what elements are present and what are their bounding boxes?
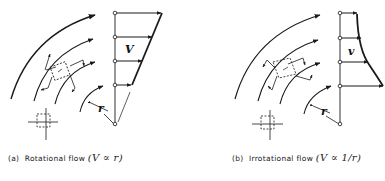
velocity-label: v <box>348 45 355 58</box>
radius-label: r <box>98 102 105 115</box>
caption-prefix: (b) <box>232 154 244 163</box>
streamlines <box>11 15 103 112</box>
caption-b: (b) Irrotational flow (V ∝ 1/r) <box>232 152 361 163</box>
panel-a-rotational: V r <box>11 11 162 140</box>
velocity-label: V <box>125 43 135 56</box>
caption-prefix: (a) <box>8 154 19 163</box>
panel-b-irrotational: v r <box>235 11 383 140</box>
velocity-profile-linear <box>113 11 162 126</box>
caption-relation: (V ∝ r) <box>88 152 123 163</box>
velocity-profile-hyperbolic <box>338 11 383 126</box>
caption-a: (a) Rotational flow (V ∝ r) <box>8 152 123 163</box>
caption-relation: (V ∝ 1/r) <box>316 152 361 163</box>
caption-text: Irrotational flow <box>249 154 313 163</box>
fluid-element-reference <box>252 110 283 140</box>
streamlines <box>235 15 331 114</box>
fluid-element-reference <box>28 108 58 140</box>
caption-text: Rotational flow <box>25 154 85 163</box>
